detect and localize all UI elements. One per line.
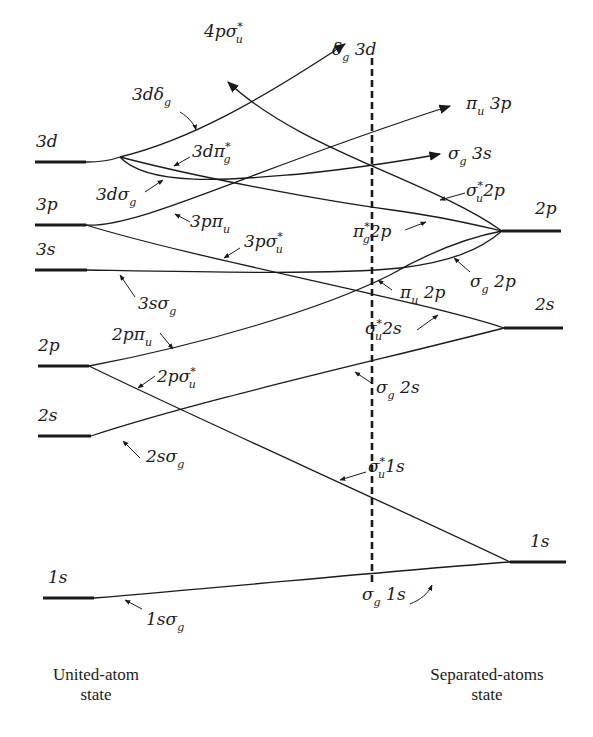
correlation-curves — [86, 44, 510, 598]
united-atom-levels — [35, 162, 94, 598]
label-sigma-u-star-2s: σ*u2s — [365, 317, 402, 343]
label-sigma-u-star-1s: σ*u1s — [368, 455, 405, 481]
label-3d-sigma-g: 3dσg — [96, 184, 136, 209]
label-2s-left: 2s — [37, 405, 58, 425]
label-sigma-g-3s: σg 3s — [448, 143, 492, 168]
label-3s-sigma-g: 3sσg — [138, 293, 176, 318]
label-1s-sigma-g: 1sσg — [146, 609, 184, 634]
label-2p-right: 2p — [534, 198, 557, 218]
label-3s-left: 3s — [36, 239, 56, 259]
label-1s-left: 1s — [48, 567, 68, 587]
label-3p-pi-u: 3pπu — [190, 211, 230, 236]
united-atom-caption-line1: United-atom — [53, 665, 139, 684]
label-2p-pi-u: 2pπu — [111, 324, 152, 349]
curve-3d-sigma-g — [120, 154, 440, 179]
label-3p-left: 3p — [36, 194, 58, 214]
label-sigma-u-star-2p: σ*u2p — [466, 179, 505, 205]
label-2p-sigma-u-star: 2pσ*u — [156, 365, 196, 391]
united-atom-orbital-labels: 3dδg 3dπ*g 3dσg 4pσ*u 3pπu 3pσ*u 3sσg 2p… — [96, 20, 283, 634]
separated-atoms-caption-line1: Separated-atoms — [430, 665, 543, 684]
label-delta-g-3d: δg 3d — [332, 39, 377, 64]
label-sigma-g-2p: σg 2p — [470, 271, 516, 296]
united-atom-level-labels: 3d 3p 3s 2p 2s 1s — [36, 131, 68, 587]
label-pi-u-2p: πu 2p — [399, 282, 446, 307]
label-2s-right: 2s — [534, 294, 555, 314]
label-2p-left: 2p — [37, 335, 60, 355]
curve-3d-pi-g-star — [120, 157, 502, 231]
curve-3s-sigma-g — [87, 231, 502, 272]
curve-1s-sigma-g — [94, 562, 510, 598]
separated-atom-orbital-labels: δg 3d πu 3p σg 3s σ*u2p π*g2p σg 2p πu 2… — [332, 39, 516, 609]
united-atom-caption-line2: state — [80, 685, 111, 704]
label-pi-u-3p: πu 3p — [465, 93, 512, 118]
label-2s-sigma-g: 2sσg — [145, 446, 184, 471]
label-sigma-g-1s: σg 1s — [362, 584, 406, 609]
separated-atom-level-labels: 2p 2s 1s — [530, 198, 557, 551]
label-pi-g-star-2p: π*g2p — [352, 220, 392, 246]
curve-2s-sigma-g — [91, 328, 504, 436]
label-4p-sigma-u-star: 4pσ*u — [203, 20, 243, 46]
label-3d-pi-g-star: 3dπ*g — [192, 140, 231, 166]
label-sigma-g-2s: σg 2s — [376, 377, 420, 402]
label-3d-left: 3d — [36, 131, 58, 151]
label-1s-right: 1s — [530, 531, 550, 551]
label-3d-delta-g: 3dδg — [132, 84, 171, 109]
label-3p-sigma-u-star: 3pσ*u — [244, 230, 283, 256]
curve-3p-pi-u — [86, 106, 450, 225]
captions: United-atom state Separated-atoms state — [53, 665, 544, 704]
correlation-diagram: 3d 3p 3s 2p 2s 1s 2p 2s 1s 3dδg 3dπ*g 3d… — [0, 0, 593, 737]
curve-3d-stem — [86, 157, 120, 162]
separated-atoms-caption-line2: state — [471, 685, 502, 704]
